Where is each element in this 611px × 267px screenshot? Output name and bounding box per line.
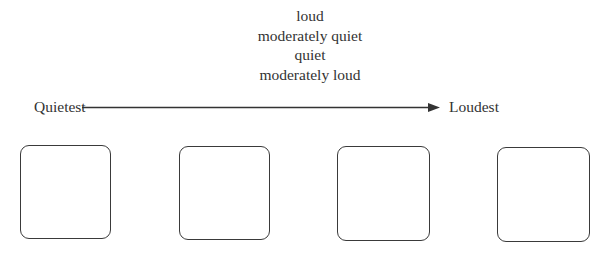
answer-box-1[interactable] xyxy=(20,145,111,239)
answer-box-4[interactable] xyxy=(497,147,590,242)
answer-box-2[interactable] xyxy=(179,146,270,240)
answer-box-3[interactable] xyxy=(337,146,430,241)
